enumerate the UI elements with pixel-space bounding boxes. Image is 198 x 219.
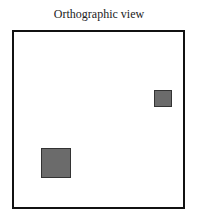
view-title: Orthographic view — [0, 7, 198, 22]
small-square — [154, 90, 172, 107]
large-square — [41, 148, 71, 178]
orthographic-viewport — [12, 30, 185, 209]
